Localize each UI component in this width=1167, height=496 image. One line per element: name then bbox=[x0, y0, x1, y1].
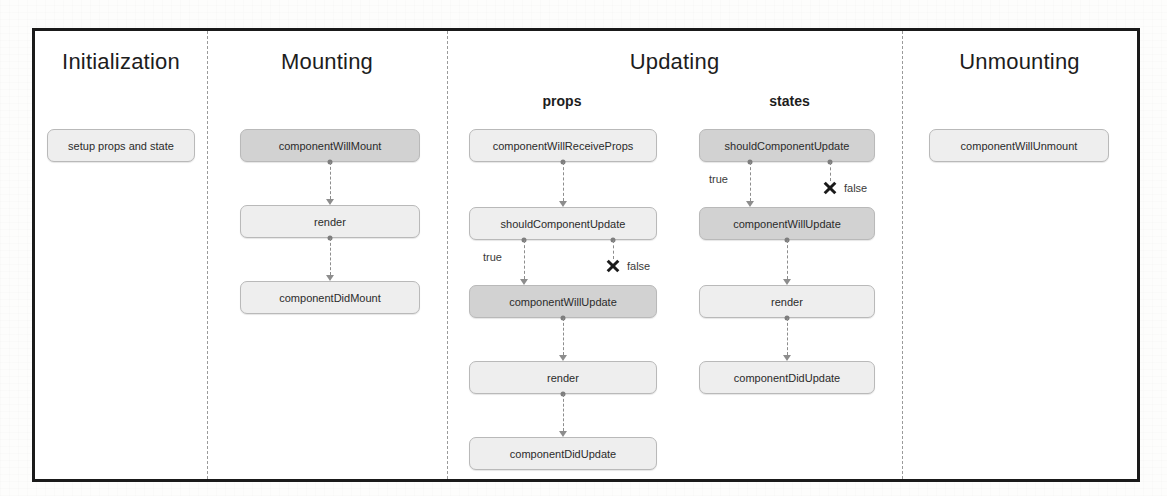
connector-arrow bbox=[783, 355, 791, 361]
node-label: componentDidUpdate bbox=[510, 448, 616, 460]
connector-arrow bbox=[559, 201, 567, 207]
phase-title-updating: Updating bbox=[447, 49, 902, 75]
node-label: render bbox=[771, 296, 803, 308]
node-component-did-update-props[interactable]: componentDidUpdate bbox=[469, 437, 657, 470]
lifecycle-figure-frame: Initialization setup props and state Mou… bbox=[32, 28, 1140, 482]
connector-true-branch-states bbox=[750, 162, 751, 201]
phase-title-mounting: Mounting bbox=[207, 49, 447, 75]
node-label: shouldComponentUpdate bbox=[501, 218, 626, 230]
terminator-x-icon bbox=[606, 259, 621, 274]
node-label: render bbox=[314, 216, 346, 228]
branch-label-false-states: false bbox=[844, 182, 867, 194]
node-component-will-update-props[interactable]: componentWillUpdate bbox=[469, 285, 657, 318]
node-render-mounting[interactable]: render bbox=[240, 205, 420, 238]
phase-updating: Updating props componentWillReceiveProps… bbox=[447, 31, 902, 479]
branch-label-false-props: false bbox=[627, 260, 650, 272]
connector-arrow bbox=[746, 201, 754, 207]
phase-title-initialization: Initialization bbox=[35, 49, 207, 75]
lane-title-props: props bbox=[447, 93, 677, 109]
lane-title-states: states bbox=[677, 93, 902, 109]
node-label: componentWillReceiveProps bbox=[493, 140, 634, 152]
terminator-x-icon bbox=[823, 181, 838, 196]
node-render-states[interactable]: render bbox=[699, 285, 875, 318]
connector-willupdate-render-states bbox=[787, 240, 788, 279]
connector-false-branch-props bbox=[613, 240, 614, 259]
connector-willupdate-render-props bbox=[563, 318, 564, 355]
connector-render-didupdate-states bbox=[787, 318, 788, 355]
node-component-will-unmount[interactable]: componentWillUnmount bbox=[929, 129, 1109, 162]
node-should-component-update-props[interactable]: shouldComponentUpdate bbox=[469, 207, 657, 240]
node-label: shouldComponentUpdate bbox=[725, 140, 850, 152]
node-component-will-mount[interactable]: componentWillMount bbox=[240, 129, 420, 162]
node-label: componentWillUnmount bbox=[961, 140, 1078, 152]
node-render-props[interactable]: render bbox=[469, 361, 657, 394]
node-component-will-receive-props[interactable]: componentWillReceiveProps bbox=[469, 129, 657, 162]
connector-render-didmount bbox=[330, 238, 331, 275]
phase-title-unmounting: Unmounting bbox=[902, 49, 1137, 75]
node-component-did-mount[interactable]: componentDidMount bbox=[240, 281, 420, 314]
node-label: render bbox=[547, 372, 579, 384]
connector-arrow bbox=[559, 355, 567, 361]
node-component-will-update-states[interactable]: componentWillUpdate bbox=[699, 207, 875, 240]
phase-mounting: Mounting componentWillMount render compo… bbox=[207, 31, 447, 479]
connector-true-branch-props bbox=[524, 240, 525, 279]
node-component-did-update-states[interactable]: componentDidUpdate bbox=[699, 361, 875, 394]
phase-unmounting: Unmounting componentWillUnmount bbox=[902, 31, 1137, 479]
connector-render-didupdate-props bbox=[563, 394, 564, 431]
node-label: componentWillUpdate bbox=[733, 218, 841, 230]
connector-false-branch-states bbox=[830, 162, 831, 181]
connector-arrow bbox=[783, 279, 791, 285]
connector-willreceiveprops-shouldupdate bbox=[563, 162, 564, 201]
branch-label-true-props: true bbox=[483, 251, 502, 263]
connector-arrow bbox=[520, 279, 528, 285]
phase-initialization: Initialization setup props and state bbox=[35, 31, 207, 479]
connector-arrow bbox=[326, 275, 334, 281]
node-label: componentWillUpdate bbox=[509, 296, 617, 308]
node-label: componentDidUpdate bbox=[734, 372, 840, 384]
connector-arrow bbox=[559, 431, 567, 437]
branch-label-true-states: true bbox=[709, 173, 728, 185]
connector-willmount-render bbox=[330, 162, 331, 199]
connector-arrow bbox=[326, 199, 334, 205]
node-should-component-update-states[interactable]: shouldComponentUpdate bbox=[699, 129, 875, 162]
node-label: componentDidMount bbox=[279, 292, 381, 304]
node-label: componentWillMount bbox=[279, 140, 382, 152]
node-label: setup props and state bbox=[68, 140, 174, 152]
node-setup-props-and-state[interactable]: setup props and state bbox=[47, 129, 195, 162]
